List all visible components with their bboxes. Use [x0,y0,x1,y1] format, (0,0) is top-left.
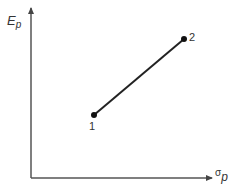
x-axis-label: σp [215,167,228,184]
diagram-canvas: Ep σp 1 2 [0,0,242,192]
point-1 [91,112,97,118]
point-1-label: 1 [89,120,95,132]
point-2-label: 2 [189,31,195,43]
line-1-2 [94,39,184,115]
y-axis-label: Ep [7,13,22,30]
point-2 [181,36,187,42]
